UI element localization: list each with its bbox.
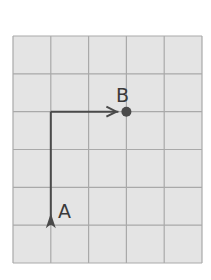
point-a-label: A [58, 200, 71, 222]
point-b-dot [121, 107, 131, 117]
point-b-label: B [116, 84, 129, 106]
grid-diagram: A B [0, 0, 211, 280]
